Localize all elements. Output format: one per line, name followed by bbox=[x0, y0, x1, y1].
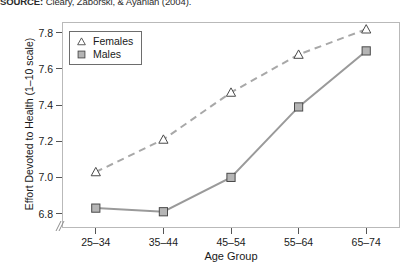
data-point bbox=[159, 208, 167, 216]
y-tick-label: 7.6 bbox=[5, 63, 53, 75]
data-point bbox=[226, 88, 235, 96]
y-axis-title: Effort Devoted to Health (1–10 scale) bbox=[23, 24, 35, 224]
legend-item-females: Females bbox=[74, 35, 133, 48]
x-tick-label: 65–74 bbox=[326, 236, 406, 248]
y-tick-label: 6.8 bbox=[5, 208, 53, 220]
data-point bbox=[294, 50, 303, 58]
x-tick-mark bbox=[163, 228, 164, 234]
legend-item-males: Males bbox=[74, 48, 133, 61]
x-axis-title: Age Group bbox=[62, 250, 400, 262]
y-tick-label: 7.2 bbox=[5, 135, 53, 147]
legend-label-males: Males bbox=[93, 48, 121, 61]
series-males bbox=[92, 47, 371, 216]
series-line bbox=[96, 51, 366, 212]
data-point bbox=[362, 47, 370, 55]
triangle-marker-icon bbox=[74, 35, 88, 48]
legend-label-females: Females bbox=[93, 35, 133, 48]
data-point bbox=[91, 167, 100, 175]
x-tick-mark bbox=[95, 228, 96, 234]
data-point bbox=[159, 135, 168, 143]
y-tick: 7.6 bbox=[0, 63, 62, 75]
data-point bbox=[92, 204, 100, 212]
y-tick: 6.8 bbox=[0, 208, 62, 220]
x-tick-mark bbox=[231, 228, 232, 234]
data-point bbox=[362, 25, 371, 33]
y-tick: 7.2 bbox=[0, 135, 62, 147]
y-tick-label: 7.8 bbox=[5, 27, 53, 39]
y-tick-label: 7.0 bbox=[5, 171, 53, 183]
square-marker-icon bbox=[74, 48, 88, 61]
line-chart: Effort Devoted to Health (1–10 scale) Ag… bbox=[0, 0, 413, 273]
legend: Females Males bbox=[69, 31, 142, 65]
y-tick: 7.0 bbox=[0, 171, 62, 183]
y-tick-label: 7.4 bbox=[5, 99, 53, 111]
x-tick-mark bbox=[366, 228, 367, 234]
data-point bbox=[295, 103, 303, 111]
y-tick: 7.8 bbox=[0, 27, 62, 39]
x-tick-mark bbox=[298, 228, 299, 234]
y-tick: 7.4 bbox=[0, 99, 62, 111]
data-point bbox=[227, 173, 235, 181]
